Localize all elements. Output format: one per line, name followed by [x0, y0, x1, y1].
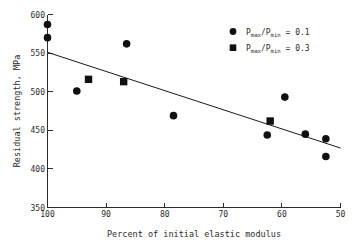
series-circle-markers [44, 21, 330, 161]
y-axis-title: Residual strength, MPa [12, 55, 22, 168]
data-point-circle-5 [263, 131, 271, 139]
data-point-circle-4 [170, 112, 178, 120]
data-point-square-2 [266, 117, 273, 124]
x-tick-label-80: 80 [160, 210, 170, 219]
data-point-circle-1 [44, 34, 52, 42]
legend-square-icon [230, 44, 237, 51]
x-tick-group [48, 203, 341, 208]
y-tick-label-400: 400 [31, 165, 46, 174]
y-tick-labels: 350 400 450 500 550 600 [31, 11, 46, 213]
data-point-circle-3 [123, 40, 131, 48]
data-point-circle-2 [73, 87, 81, 95]
data-point-circle-7 [302, 130, 310, 138]
legend: Pmax/Pmin = 0.1 Pmax/Pmin = 0.3 [230, 28, 310, 54]
y-tick-label-500: 500 [31, 88, 46, 97]
y-tick-label-600: 600 [31, 11, 46, 20]
y-tick-group [48, 15, 53, 208]
x-tick-label-90: 90 [101, 210, 111, 219]
y-tick-label-450: 450 [31, 126, 46, 135]
data-point-square-0 [85, 76, 92, 83]
x-tick-label-60: 60 [277, 210, 287, 219]
scatter-plot: 350 400 450 500 550 600 100 90 80 70 60 … [0, 0, 361, 244]
legend-circle-icon [230, 28, 237, 35]
data-point-circle-6 [281, 93, 289, 101]
x-tick-labels: 100 90 80 70 60 50 [40, 210, 345, 219]
chart-figure: 350 400 450 500 550 600 100 90 80 70 60 … [0, 0, 361, 244]
x-tick-label-70: 70 [218, 210, 228, 219]
x-axis-title: Percent of initial elastic modulus [107, 229, 281, 239]
data-point-circle-9 [322, 153, 330, 161]
legend-label-1: Pmax/Pmin = 0.3 [246, 44, 310, 54]
y-tick-label-550: 550 [31, 49, 46, 58]
data-point-square-1 [120, 78, 127, 85]
legend-label-0: Pmax/Pmin = 0.1 [246, 28, 310, 38]
trend-line [48, 52, 341, 148]
data-point-circle-8 [322, 135, 330, 143]
x-tick-label-100: 100 [40, 210, 55, 219]
data-point-circle-0 [44, 21, 52, 29]
x-tick-label-50: 50 [336, 210, 346, 219]
